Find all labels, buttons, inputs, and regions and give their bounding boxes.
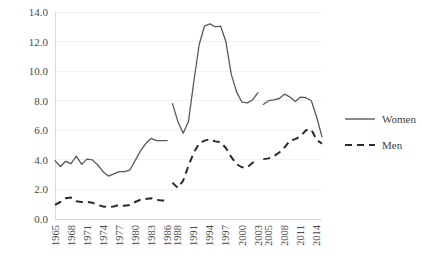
x-tick-label: 1980 <box>130 225 141 246</box>
axis-group <box>55 12 322 219</box>
y-tick-label: 10.0 <box>29 65 49 77</box>
y-axis-tick-labels: 0.02.04.06.08.010.012.014.0 <box>29 6 49 225</box>
x-tick-label: 1997 <box>220 225 231 246</box>
chart-canvas: 0.02.04.06.08.010.012.014.0 196519681971… <box>0 0 422 264</box>
x-tick-label: 1991 <box>188 225 199 246</box>
x-tick-label: 2008 <box>279 225 290 246</box>
x-tick-label: 1986 <box>162 225 173 246</box>
x-axis-tick-labels: 1965196819711974197719801983198619881991… <box>50 224 323 246</box>
x-tick-label: 2003 <box>253 225 264 246</box>
x-tick-label: 1977 <box>114 225 125 246</box>
x-tick-label: 1988 <box>172 225 183 246</box>
series-line-men-segment-3 <box>263 130 322 160</box>
chart-legend: WomenMen <box>345 113 416 151</box>
series-line-women-segment-1 <box>55 138 167 176</box>
y-tick-label: 8.0 <box>34 95 48 107</box>
y-tick-label: 4.0 <box>34 154 48 166</box>
y-tick-label: 0.0 <box>34 213 48 225</box>
x-tick-label: 1968 <box>66 225 77 246</box>
x-tick-label: 2014 <box>311 224 322 246</box>
series-line-women-segment-2 <box>172 24 257 133</box>
legend-label-men: Men <box>382 139 403 151</box>
series-line-men-segment-2 <box>172 139 257 188</box>
x-tick-label: 1971 <box>82 225 93 246</box>
x-tick-label: 1974 <box>98 224 109 246</box>
y-tick-label: 14.0 <box>29 6 49 18</box>
x-tick-label: 2000 <box>237 225 248 246</box>
x-tick-label: 1994 <box>204 224 215 246</box>
y-tick-label: 2.0 <box>34 183 48 195</box>
x-tick-label: 1983 <box>146 225 157 246</box>
legend-label-women: Women <box>382 113 416 125</box>
y-tick-label: 12.0 <box>29 36 49 48</box>
x-tick-label: 2005 <box>263 225 274 246</box>
plot-series-group <box>55 24 322 207</box>
x-tick-label: 1965 <box>50 225 61 246</box>
y-tick-label: 6.0 <box>34 124 48 136</box>
series-line-men-segment-1 <box>55 198 167 208</box>
x-tick-label: 2011 <box>295 225 306 246</box>
line-chart: 0.02.04.06.08.010.012.014.0 196519681971… <box>0 0 422 264</box>
